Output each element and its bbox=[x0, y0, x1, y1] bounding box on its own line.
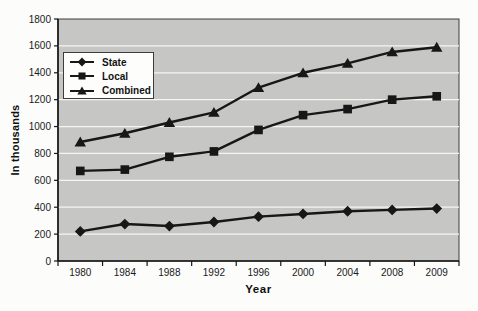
x-tick-label-2009: 2009 bbox=[426, 267, 449, 278]
legend-diamond-icon bbox=[69, 56, 95, 68]
x-tick-label-1996: 1996 bbox=[247, 267, 270, 278]
x-tick-label-2000: 2000 bbox=[292, 267, 315, 278]
legend-label-state: State bbox=[102, 57, 126, 68]
y-tick-label-1800: 1800 bbox=[29, 14, 52, 25]
local-marker-2008 bbox=[388, 95, 397, 104]
x-tick-label-1980: 1980 bbox=[69, 267, 92, 278]
y-tick-label-600: 600 bbox=[34, 175, 51, 186]
y-tick-label-1400: 1400 bbox=[29, 67, 52, 78]
legend-square-icon bbox=[69, 70, 95, 82]
legend: StateLocalCombined bbox=[63, 52, 154, 99]
legend-item-local: Local bbox=[69, 69, 153, 83]
x-tick-label-1984: 1984 bbox=[114, 267, 137, 278]
y-tick-label-800: 800 bbox=[34, 148, 51, 159]
chart-canvas: 0200400600800100012001400160018001980198… bbox=[0, 0, 478, 311]
legend-item-state: State bbox=[69, 55, 153, 69]
x-tick-label-2008: 2008 bbox=[381, 267, 404, 278]
local-marker-2004 bbox=[343, 105, 352, 114]
legend-marker-square bbox=[78, 73, 85, 80]
legend-item-combined: Combined bbox=[69, 84, 153, 98]
y-tick-label-1200: 1200 bbox=[29, 94, 52, 105]
local-marker-2000 bbox=[299, 111, 308, 120]
local-marker-1992 bbox=[210, 147, 219, 156]
local-marker-1988 bbox=[165, 152, 174, 161]
local-marker-1980 bbox=[76, 167, 85, 176]
legend-label-combined: Combined bbox=[102, 85, 151, 96]
legend-triangle-icon bbox=[69, 85, 95, 97]
legend-marker-diamond bbox=[78, 58, 87, 67]
y-tick-label-1000: 1000 bbox=[29, 121, 52, 132]
x-tick-label-1988: 1988 bbox=[158, 267, 181, 278]
legend-label-local: Local bbox=[102, 71, 128, 82]
y-tick-label-400: 400 bbox=[34, 202, 51, 213]
x-axis-title: Year bbox=[58, 283, 459, 295]
y-tick-label-200: 200 bbox=[34, 229, 51, 240]
y-axis-title: In thousands bbox=[9, 80, 25, 200]
line-chart-figure: 0200400600800100012001400160018001980198… bbox=[0, 0, 478, 311]
x-tick-label-2004: 2004 bbox=[336, 267, 359, 278]
local-marker-2009 bbox=[432, 92, 441, 101]
x-tick-label-1992: 1992 bbox=[203, 267, 226, 278]
y-tick-label-0: 0 bbox=[45, 256, 51, 267]
local-marker-1996 bbox=[254, 126, 263, 135]
local-marker-1984 bbox=[121, 165, 130, 174]
y-tick-label-1600: 1600 bbox=[29, 40, 52, 51]
